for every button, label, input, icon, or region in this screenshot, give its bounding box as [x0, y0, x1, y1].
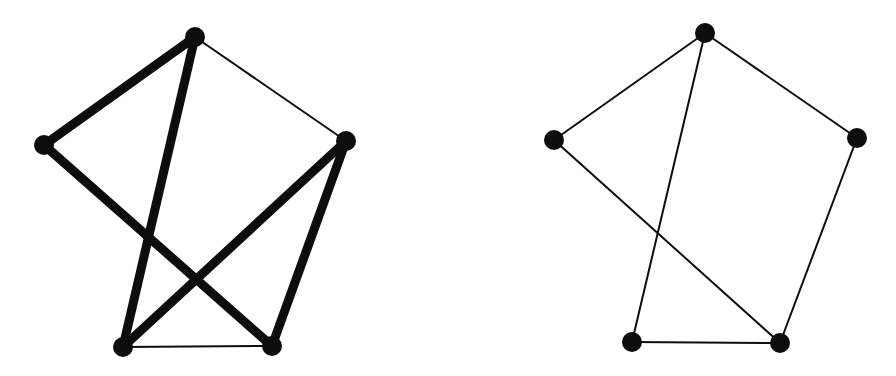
graph-vertex-L-bottom-left: [113, 337, 133, 357]
figure-root: [0, 0, 896, 376]
graph-vertex-R-right: [847, 128, 867, 148]
graph-vertex-R-bottom-left: [622, 332, 642, 352]
graph-diagram-canvas: [0, 0, 896, 376]
graph-vertex-R-left: [544, 130, 564, 150]
graph-vertex-L-right: [336, 131, 356, 151]
graph-vertex-R-bottom-right: [770, 333, 790, 353]
graph-edge-L-bottom-left-L-bottom-right: [123, 346, 272, 347]
graph-edge-R-bottom-left-R-bottom-right: [632, 342, 780, 343]
graph-vertex-L-bottom-right: [262, 336, 282, 356]
figure-background: [0, 0, 896, 376]
graph-vertex-L-top: [185, 27, 205, 47]
graph-vertex-L-left: [34, 135, 54, 155]
graph-vertex-R-top: [695, 23, 715, 43]
